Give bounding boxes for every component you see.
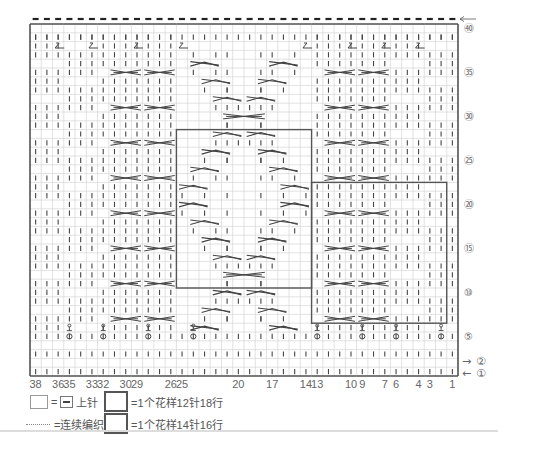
svg-text:3: 3 xyxy=(427,378,433,390)
decrease-icon xyxy=(55,43,64,48)
svg-text:⑤: ⑤ xyxy=(464,331,473,342)
decrease-icon xyxy=(179,43,188,48)
svg-text:㉟: ㉟ xyxy=(464,67,474,78)
decrease-icon xyxy=(416,43,425,48)
svg-text:29: 29 xyxy=(131,378,143,390)
svg-text:4: 4 xyxy=(416,378,422,390)
svg-text:1: 1 xyxy=(449,378,455,390)
decrease-icon xyxy=(89,43,98,48)
svg-text:32: 32 xyxy=(97,378,109,390)
svg-text:7: 7 xyxy=(382,378,388,390)
svg-text:①: ① xyxy=(476,367,486,380)
decrease-icon xyxy=(382,43,391,48)
svg-text:㉕: ㉕ xyxy=(464,155,474,166)
decrease-icon xyxy=(348,43,357,48)
svg-text:㊵: ㊵ xyxy=(464,23,474,34)
svg-text:6: 6 xyxy=(393,378,399,390)
legend-pattern-12: =1个花样12针18行 xyxy=(104,391,223,412)
svg-text:9: 9 xyxy=(359,378,365,390)
svg-text:38: 38 xyxy=(30,378,42,390)
svg-text:10: 10 xyxy=(345,378,357,390)
column-labels: 3836353332302926252017141310976431 xyxy=(30,378,456,390)
legend-purl-label: 上针 xyxy=(76,394,98,410)
row-labels: ㊵㉟㉚㉕⑳⑮⑩⑤→②←① xyxy=(462,23,486,379)
legend-equals: = xyxy=(51,396,57,408)
page-divider xyxy=(0,430,498,432)
svg-text:35: 35 xyxy=(63,378,75,390)
svg-text:13: 13 xyxy=(311,378,323,390)
blank-cell-icon xyxy=(30,395,48,409)
legend-purl: = 上针 xyxy=(30,394,98,410)
svg-text:25: 25 xyxy=(176,378,188,390)
purl-symbol-icon xyxy=(60,396,73,408)
svg-text:㉚: ㉚ xyxy=(464,111,474,122)
svg-text:20: 20 xyxy=(232,378,244,390)
svg-text:⑮: ⑮ xyxy=(464,243,474,254)
twisted-stitch-icon xyxy=(439,324,444,330)
svg-text:⑳: ⑳ xyxy=(464,199,474,210)
decrease-icon xyxy=(134,43,143,48)
svg-text:←: ← xyxy=(462,367,471,380)
legend-pattern12-label: =1个花样12针18行 xyxy=(131,394,223,410)
dotted-line-icon xyxy=(26,424,50,425)
svg-text:17: 17 xyxy=(266,378,278,390)
svg-text:⑩: ⑩ xyxy=(464,287,473,298)
knitting-chart: 3836353332302926252017141310976431㊵㉟㉚㉕⑳⑮… xyxy=(0,0,539,458)
twisted-stitch-icon xyxy=(67,324,72,330)
pattern-box-icon xyxy=(104,391,128,412)
decrease-icon xyxy=(303,43,312,48)
